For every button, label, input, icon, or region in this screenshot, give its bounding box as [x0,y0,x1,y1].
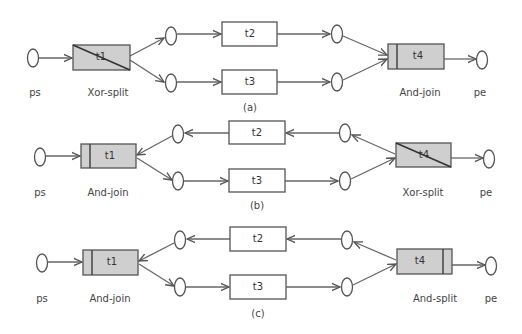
arc [354,242,396,260]
arc [139,264,174,286]
place [173,125,184,143]
arc [139,243,174,261]
label-t4-type: Xor-split [402,187,443,198]
place-ps [28,49,39,67]
svg-text:t1: t1 [105,150,115,161]
svg-text:t3: t3 [252,175,262,186]
svg-text:t2: t2 [253,233,263,244]
transition-t4-xor-split: t4 [396,143,451,167]
place-pe [484,150,495,168]
label-t1-type: Xor-split [87,87,128,98]
place [340,124,351,142]
transition-t2: t2 [230,227,286,251]
svg-text:t3: t3 [253,281,263,292]
transition-t3: t3 [230,275,286,299]
svg-text:t4: t4 [413,50,423,61]
place [166,74,177,92]
transition-t3: t3 [229,169,285,192]
arc [137,158,172,180]
caption-c: (c) [251,308,264,319]
caption-a: (a) [243,102,257,113]
arc [352,135,395,154]
caption-b: (b) [250,200,264,211]
transition-t1-and-join: t1 [81,144,136,168]
place-ps [35,148,46,166]
label-pe: pe [480,187,493,198]
transition-t4-and-join: t4 [388,44,444,69]
place [166,27,177,45]
svg-text:t2: t2 [245,28,255,39]
petri-net-figure: t1 t2 t3 t4 ps Xor-split (a [0,0,522,334]
arc [137,136,172,155]
panel-c: t1 t2 t3 t4 ps And-join (c) [36,227,497,319]
label-t1-type: And-join [89,293,130,304]
place [173,172,184,190]
place [175,231,186,249]
svg-text:t1: t1 [96,51,106,62]
transition-t2: t2 [222,22,277,46]
transition-t4-and-split: t4 [397,249,452,274]
transition-t2: t2 [229,121,285,144]
label-ps: ps [34,187,46,198]
place-ps [37,254,48,272]
label-ps: ps [29,87,41,98]
transition-t3: t3 [222,70,277,94]
place [342,231,353,249]
arc [130,38,164,56]
arc [351,158,395,179]
place [175,278,186,296]
label-t1-type: And-join [87,187,128,198]
svg-text:t4: t4 [419,149,429,160]
place [340,172,351,190]
panel-a: t1 t2 t3 t4 ps Xor-split (a [28,22,488,113]
label-t4-type: And-join [399,87,440,98]
label-pe: pe [474,87,487,98]
transition-t1-and-join: t1 [83,250,138,275]
arc [343,59,387,80]
arc [130,60,164,82]
svg-text:t4: t4 [415,255,425,266]
panel-b: t1 t2 t3 t4 ps And-join (b) [34,121,494,211]
transition-t1-xor-split: t1 [73,45,130,70]
place-pe [486,257,497,275]
label-t4-type: And-split [413,293,457,304]
place [332,73,343,91]
svg-text:t1: t1 [107,256,117,267]
label-pe: pe [485,293,498,304]
svg-text:t2: t2 [252,127,262,138]
label-ps: ps [36,293,48,304]
place [332,25,343,43]
place [342,278,353,296]
arc [353,264,396,285]
arc [343,36,387,55]
svg-text:t3: t3 [245,76,255,87]
place-pe [477,51,488,69]
